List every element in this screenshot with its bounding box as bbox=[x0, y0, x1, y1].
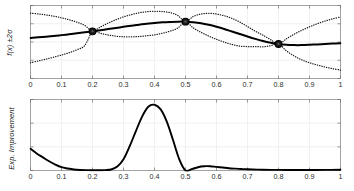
x-tick-label: 0.1 bbox=[57, 80, 67, 89]
x-tick-label: 1 bbox=[339, 80, 343, 89]
observation-marker-center bbox=[91, 30, 93, 32]
top-plot-x-tick-labels: 00.10.20.30.40.50.60.70.80.91 bbox=[0, 80, 354, 91]
bottom-plot-x-tick-labels: 00.10.20.30.40.50.60.70.80.91 bbox=[0, 172, 354, 183]
bottom-plot-y-axis-label: Exp. Improvement bbox=[7, 103, 16, 175]
x-tick-label: 0.3 bbox=[119, 172, 129, 181]
x-tick-label: 0.2 bbox=[88, 172, 98, 181]
x-tick-label: 0.1 bbox=[57, 172, 67, 181]
x-tick-label: 0.8 bbox=[274, 172, 284, 181]
x-tick-label: 0.8 bbox=[274, 80, 284, 89]
top-plot-y-axis-label: f(x) ±2σ bbox=[5, 17, 14, 69]
observation-marker-center bbox=[184, 20, 186, 22]
x-tick-label: 0.9 bbox=[305, 172, 315, 181]
x-tick-label: 0.6 bbox=[212, 172, 222, 181]
x-tick-label: 0.5 bbox=[181, 172, 191, 181]
x-tick-label: 0.7 bbox=[243, 80, 253, 89]
plots-svg bbox=[0, 0, 354, 191]
x-tick-label: 0.6 bbox=[212, 80, 222, 89]
figure-container: f(x) ±2σ Exp. Improvement 00.10.20.30.40… bbox=[0, 0, 354, 191]
x-tick-label: 0.9 bbox=[305, 80, 315, 89]
x-tick-label: 0.7 bbox=[243, 172, 253, 181]
x-tick-label: 1 bbox=[339, 172, 343, 181]
observation-marker-center bbox=[277, 43, 279, 45]
x-tick-label: 0.4 bbox=[150, 172, 160, 181]
x-tick-label: 0.4 bbox=[150, 80, 160, 89]
bottom-panel bbox=[31, 100, 341, 172]
x-tick-label: 0 bbox=[29, 80, 33, 89]
x-tick-label: 0.5 bbox=[181, 80, 191, 89]
x-tick-label: 0.3 bbox=[119, 80, 129, 89]
x-tick-label: 0.2 bbox=[88, 80, 98, 89]
top-panel bbox=[31, 6, 341, 79]
x-tick-label: 0 bbox=[29, 172, 33, 181]
